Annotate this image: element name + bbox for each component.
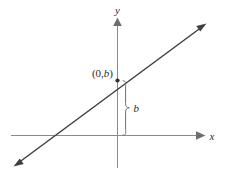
x-axis-label: x <box>209 130 215 142</box>
x-axis-group <box>11 131 206 140</box>
y-axis-group <box>113 18 122 169</box>
coordinate-plane-figure: y x (0,b) b <box>0 0 226 174</box>
y-axis-label: y <box>114 4 120 16</box>
y-axis-arrowhead-icon <box>113 18 122 27</box>
vertical-curly-brace-icon <box>123 81 129 135</box>
y-intercept-label-close: ) <box>109 67 113 80</box>
plotted-line-group <box>14 24 207 167</box>
brace-group <box>123 81 129 135</box>
brace-label-b: b <box>134 102 140 114</box>
plotted-line <box>20 28 201 162</box>
y-intercept-label-open: (0, <box>92 67 104 80</box>
figure-canvas: y x (0,b) b <box>0 0 226 174</box>
y-intercept-point-label: (0,b) <box>92 67 113 80</box>
y-intercept-point-marker <box>115 78 119 82</box>
x-axis-arrowhead-icon <box>196 131 206 140</box>
